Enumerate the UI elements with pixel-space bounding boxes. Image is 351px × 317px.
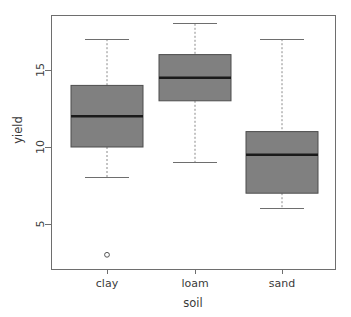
x-axis-title: soil — [183, 296, 202, 310]
outlier-point-clay-0 — [105, 252, 110, 257]
x-tick-label-clay: clay — [96, 277, 119, 290]
boxplot-canvas: 51015clayloamsandsoilyield — [0, 0, 351, 317]
x-tick-label-loam: loam — [181, 277, 208, 290]
box-group-loam — [159, 24, 231, 163]
iqr-box-sand — [246, 132, 318, 194]
box-group-sand — [246, 39, 318, 208]
box-series-layer — [71, 24, 318, 257]
box-group-clay — [71, 39, 143, 257]
y-tick-label-10: 10 — [34, 140, 47, 154]
y-tick-label-5: 5 — [34, 221, 47, 228]
y-tick-label-15: 15 — [34, 63, 47, 77]
boxplot-figure: 51015clayloamsandsoilyield — [0, 0, 351, 317]
x-tick-label-sand: sand — [269, 277, 295, 290]
y-axis-title: yield — [11, 116, 25, 144]
